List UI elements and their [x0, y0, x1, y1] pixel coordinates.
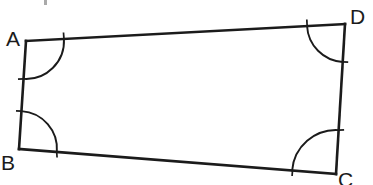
edge-CB [19, 149, 336, 174]
angle-arc-A [24, 39, 64, 79]
vertex-label-b: B [1, 152, 15, 173]
edge-DC [336, 24, 345, 174]
quadrilateral-drawing [0, 0, 373, 185]
geometry-figure: A B C D [0, 0, 373, 185]
cropped-text-artifact [44, 0, 47, 5]
vertex-label-d: D [350, 6, 365, 27]
angle-arc-B [21, 111, 57, 152]
angle-arc-D [307, 26, 343, 62]
vertex-label-c: C [338, 169, 353, 185]
angle-arc-C [292, 130, 339, 171]
edge-BA [19, 41, 26, 149]
vertex-label-a: A [6, 28, 20, 49]
edge-AD [26, 24, 345, 41]
